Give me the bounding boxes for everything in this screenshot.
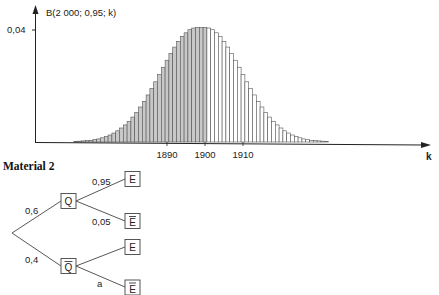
branch-prob-q: 0,6 — [25, 205, 38, 216]
histogram-bar — [291, 135, 295, 142]
histogram-bar — [108, 135, 112, 142]
x-axis — [35, 142, 431, 148]
histogram-bar — [127, 121, 131, 142]
histogram-bar — [226, 47, 230, 142]
histogram-bar — [192, 28, 196, 142]
histogram-bar — [215, 33, 219, 142]
tree-leaf-e-bar-1: E — [125, 214, 140, 229]
histogram-bar — [177, 41, 181, 142]
histogram-bar — [82, 141, 86, 142]
histogram-bar — [249, 89, 253, 142]
x-axis-arrow-icon — [421, 142, 431, 148]
histogram-bar — [298, 138, 302, 142]
histogram-bar — [196, 27, 200, 142]
histogram-bar — [230, 54, 234, 142]
histogram-bar — [78, 141, 82, 142]
histogram-bar — [211, 30, 215, 142]
histogram-bar — [260, 107, 264, 142]
histogram-bar — [139, 107, 143, 142]
tree-leaf-e-bar-2: E — [125, 280, 140, 295]
histogram-bar — [97, 139, 101, 142]
histogram-bar — [85, 141, 89, 142]
histogram-bars — [74, 27, 329, 142]
histogram-bar — [161, 67, 165, 142]
histogram-bar — [89, 140, 93, 142]
histogram-bar — [150, 89, 154, 142]
histogram-bar — [272, 121, 276, 142]
histogram-bar — [268, 117, 272, 142]
svg-text:E: E — [129, 217, 136, 228]
tree-node-q: Q — [61, 194, 76, 209]
histogram-bar — [222, 41, 226, 142]
svg-text:E: E — [129, 242, 136, 253]
histogram-bar — [154, 82, 158, 142]
branch-prob-e-given-q: 0,95 — [92, 176, 111, 187]
tree-leaf-e-2: E — [125, 240, 140, 255]
histogram-bar — [306, 139, 310, 142]
histogram-bar — [310, 140, 314, 142]
histogram-bar — [256, 101, 260, 142]
svg-text:E: E — [129, 284, 136, 295]
histogram-bar — [321, 141, 325, 142]
x-axis-title: k — [426, 151, 432, 162]
y-axis-arrow-icon — [33, 5, 39, 14]
histogram-bar — [74, 141, 78, 142]
histogram-bar — [169, 54, 173, 142]
histogram-bar — [241, 75, 245, 142]
histogram-bar — [165, 60, 169, 142]
tree-node-q-bar: Q — [61, 259, 76, 274]
y-axis-title: B(2 000; 0,95; k) — [46, 7, 116, 18]
histogram-bar — [237, 67, 241, 142]
histogram-bar — [184, 33, 188, 142]
histogram-bar — [283, 131, 287, 142]
histogram-bar — [275, 125, 279, 142]
histogram-bar — [325, 141, 329, 142]
histogram-bar — [279, 128, 283, 142]
histogram-bar — [123, 125, 127, 142]
histogram-bar — [120, 128, 124, 142]
histogram-bar — [173, 47, 177, 142]
histogram-bar — [104, 137, 108, 142]
x-tick-label-1910: 1910 — [232, 149, 253, 160]
material-heading: Material 2 — [3, 160, 55, 172]
figure: 0,04 B(2 000; 0,95; k) 1890 1900 1910 k … — [0, 0, 439, 295]
histogram-bar — [253, 95, 257, 142]
branch-prob-e-bar-given-q-bar: a — [97, 278, 103, 289]
svg-text:Q: Q — [65, 262, 73, 273]
histogram-bar — [131, 117, 135, 142]
histogram-bar — [101, 138, 105, 142]
histogram-bar — [313, 141, 317, 142]
svg-text:Q: Q — [65, 196, 73, 207]
histogram-bar — [188, 30, 192, 142]
branch-prob-q-bar: 0,4 — [25, 254, 38, 265]
histogram-bar — [287, 133, 291, 142]
histogram-bar — [142, 101, 146, 142]
histogram-bar — [218, 36, 222, 142]
histogram-bar — [234, 60, 238, 142]
x-tick-label-1900: 1900 — [194, 149, 215, 160]
x-tick-label-1890: 1890 — [156, 149, 177, 160]
svg-text:E: E — [129, 174, 136, 185]
histogram-bar — [294, 137, 298, 142]
histogram-bar — [112, 133, 116, 142]
histogram-bar — [302, 139, 306, 142]
y-axis — [32, 5, 39, 142]
histogram-bar — [116, 131, 120, 142]
histogram-bar — [180, 36, 184, 142]
histogram-bar — [207, 28, 211, 142]
histogram-bar — [93, 139, 97, 142]
histogram-bar — [158, 75, 162, 142]
branch-prob-e-bar-given-q: 0,05 — [92, 216, 111, 227]
histogram-bar — [199, 27, 203, 142]
y-tick-label: 0,04 — [7, 24, 26, 35]
histogram-bar — [317, 141, 321, 142]
histogram-bar — [146, 95, 150, 142]
histogram-bar — [245, 82, 249, 142]
histogram-bar — [264, 112, 268, 142]
histogram-bar — [203, 27, 207, 142]
histogram-bar — [135, 112, 139, 142]
tree-leaf-e-1: E — [125, 172, 140, 187]
